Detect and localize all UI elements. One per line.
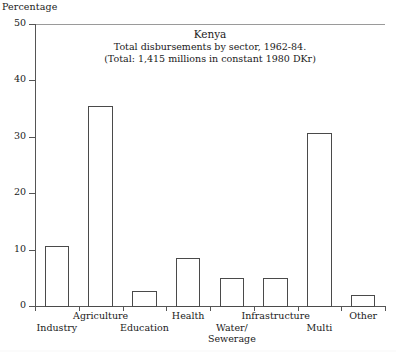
x-axis-label-industry: Industry — [37, 322, 78, 333]
bar-water-sewerage — [220, 278, 245, 307]
y-tick-10: 10 — [29, 250, 35, 251]
y-tick-label-30: 30 — [14, 130, 26, 141]
x-axis-label-other: Other — [349, 310, 377, 321]
y-axis-label: Percentage — [2, 1, 57, 12]
x-axis-label-line: Water/ — [208, 322, 256, 333]
plot-area: Kenya Total disbursements by sector, 196… — [35, 24, 385, 306]
chart-subtitle-line-2: (Total: 1,415 millions in constant 1980 … — [35, 53, 385, 65]
y-axis-line — [35, 24, 36, 306]
bar-infrastructure — [263, 278, 288, 307]
x-axis-label-agriculture: Agriculture — [73, 310, 128, 321]
x-axis-label-water: Water/Sewerage — [208, 322, 256, 344]
x-tick-7 — [341, 306, 342, 311]
x-axis-label-line: Industry — [37, 322, 78, 333]
bar-education — [132, 291, 157, 307]
y-tick-label-20: 20 — [14, 186, 26, 197]
x-axis-label-line: Health — [172, 310, 205, 321]
x-axis-label-line: Education — [120, 322, 169, 333]
y-tick-label-10: 10 — [14, 243, 26, 254]
bar-other — [351, 295, 376, 307]
y-tick-20: 20 — [29, 193, 35, 194]
bar-health — [176, 258, 201, 307]
x-axis-label-line: Agriculture — [73, 310, 128, 321]
bar-agriculture — [88, 106, 113, 307]
bar-multi — [307, 133, 332, 307]
y-tick-label-0: 0 — [20, 299, 26, 310]
x-axis-label-line: Other — [349, 310, 377, 321]
plot-top-border — [35, 24, 385, 25]
y-tick-label-50: 50 — [14, 17, 26, 28]
bar-industry — [45, 246, 70, 307]
bar-chart-figure: Percentage Kenya Total disbursements by … — [0, 0, 396, 352]
y-tick-30: 30 — [29, 137, 35, 138]
x-axis-label-line: Sewerage — [208, 333, 256, 344]
y-tick-label-40: 40 — [14, 73, 26, 84]
x-tick-0 — [35, 306, 36, 311]
x-axis-label-education: Education — [120, 322, 169, 333]
chart-title: Kenya — [35, 28, 385, 41]
x-axis-label-health: Health — [172, 310, 205, 321]
x-axis-label-line: Infrastructure — [241, 310, 309, 321]
x-axis-label-infrastructure: Infrastructure — [241, 310, 309, 321]
x-tick-4 — [210, 306, 211, 311]
y-tick-40: 40 — [29, 80, 35, 81]
x-axis-label-multi: Multi — [307, 322, 333, 333]
x-tick-3 — [166, 306, 167, 311]
x-axis-label-line: Multi — [307, 322, 333, 333]
x-tick-8 — [385, 306, 386, 311]
chart-subtitle-line-1: Total disbursements by sector, 1962-84. — [35, 41, 385, 53]
chart-title-block: Kenya Total disbursements by sector, 196… — [35, 28, 385, 65]
y-tick-50: 50 — [29, 24, 35, 25]
